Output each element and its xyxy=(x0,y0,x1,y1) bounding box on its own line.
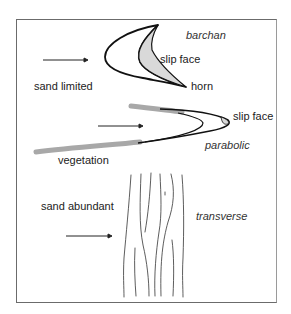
transverse-dune-crests xyxy=(124,173,184,297)
vegetation-strokes xyxy=(36,106,182,152)
label-parabolic: parabolic xyxy=(205,140,250,151)
label-vegetation: vegetation xyxy=(58,155,109,166)
label-barchan: barchan xyxy=(186,30,226,41)
dune-diagram xyxy=(0,0,291,314)
wind-arrow-icon xyxy=(43,58,88,62)
label-sand-abundant: sand abundant xyxy=(41,201,114,212)
label-transverse: transverse xyxy=(196,211,247,222)
wind-arrow-icon xyxy=(66,234,112,238)
label-barchan-slip-face: slip face xyxy=(160,54,200,65)
label-sand-limited: sand limited xyxy=(34,81,93,92)
label-horn: horn xyxy=(191,81,213,92)
label-parabolic-slip-face: slip face xyxy=(233,111,273,122)
wind-arrow-icon xyxy=(98,124,143,128)
parabolic-dune xyxy=(138,109,229,143)
